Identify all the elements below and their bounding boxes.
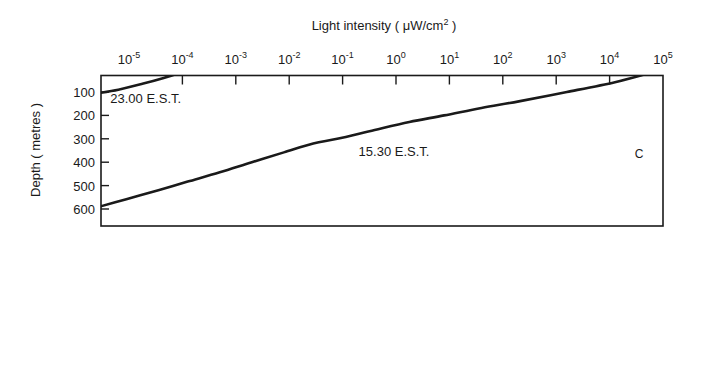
x-tick-label-9: 104 bbox=[600, 50, 619, 67]
y-tick-label-3: 400 bbox=[73, 155, 95, 170]
figure-panel-c: Light intensity ( μW/cm2 ) Depth ( metre… bbox=[0, 0, 708, 390]
curve-15-30-e-s-t- bbox=[95, 69, 663, 208]
y-tick-label-1: 200 bbox=[73, 108, 95, 123]
y-axis-tick-labels: 100200300400500600 bbox=[73, 85, 95, 217]
x-tick-label-1: 10-4 bbox=[171, 50, 193, 67]
x-tick-label-2: 10-3 bbox=[225, 50, 247, 67]
curve-label-15-30-e-s-t-: 15.30 E.S.T. bbox=[359, 144, 430, 159]
x-axis-tick-marks bbox=[182, 76, 609, 85]
y-tick-label-5: 600 bbox=[73, 202, 95, 217]
light-intensity-depth-chart: Light intensity ( μW/cm2 ) Depth ( metre… bbox=[0, 0, 708, 390]
x-tick-label-6: 101 bbox=[440, 50, 459, 67]
y-tick-label-2: 300 bbox=[73, 132, 95, 147]
x-tick-label-4: 10-1 bbox=[331, 50, 353, 67]
y-axis-title: Depth ( metres ) bbox=[28, 103, 43, 197]
y-tick-label-0: 100 bbox=[73, 85, 95, 100]
curve-label-23-00-e-s-t-: 23.00 E.S.T. bbox=[110, 91, 181, 106]
x-tick-label-8: 103 bbox=[546, 50, 565, 67]
panel-label-c: C bbox=[635, 147, 644, 161]
x-axis-tick-labels: 10-510-410-310-210-1100101102103104105 bbox=[118, 50, 673, 67]
y-tick-label-4: 500 bbox=[73, 179, 95, 194]
x-tick-label-10: 105 bbox=[653, 50, 672, 67]
curve-annotations: 23.00 E.S.T.15.30 E.S.T.C bbox=[110, 91, 643, 161]
data-curves bbox=[95, 69, 663, 208]
x-axis-title-text: Light intensity ( μW/cm2 ) bbox=[312, 17, 457, 33]
x-tick-label-7: 102 bbox=[493, 50, 512, 67]
x-tick-label-5: 100 bbox=[386, 50, 405, 67]
x-tick-label-0: 10-5 bbox=[118, 50, 140, 67]
y-axis-tick-marks bbox=[101, 92, 109, 209]
y-axis-title-text: Depth ( metres ) bbox=[28, 103, 43, 197]
x-tick-label-3: 10-2 bbox=[278, 50, 300, 67]
x-axis-title-main: Light intensity ( bbox=[312, 18, 403, 33]
x-axis-title: Light intensity ( μW/cm2 ) bbox=[312, 17, 457, 33]
